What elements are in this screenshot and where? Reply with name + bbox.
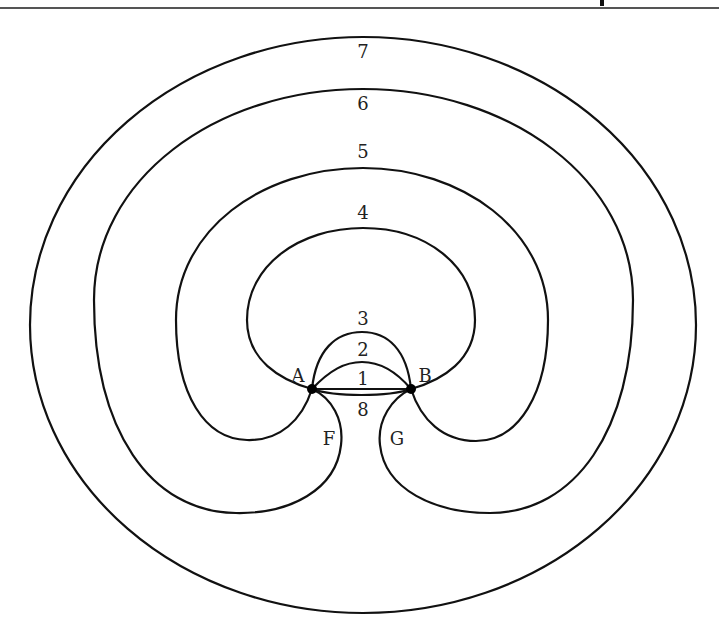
label-5: 5 bbox=[357, 141, 368, 162]
label-4: 4 bbox=[357, 202, 368, 223]
label-7: 7 bbox=[357, 41, 368, 62]
region-label-g: G bbox=[390, 428, 404, 449]
graph-diagram: 7 6 5 4 3 2 1 8 A B F G bbox=[0, 0, 719, 637]
label-8: 8 bbox=[357, 399, 368, 420]
vertex-label-b: B bbox=[418, 365, 431, 386]
region-label-f: F bbox=[323, 428, 336, 449]
label-3: 3 bbox=[357, 308, 368, 329]
label-1: 1 bbox=[357, 368, 368, 389]
label-2: 2 bbox=[357, 339, 368, 360]
vertex-a bbox=[307, 384, 317, 394]
vertex-b bbox=[406, 384, 416, 394]
vertex-label-a: A bbox=[291, 365, 306, 386]
label-6: 6 bbox=[357, 93, 368, 114]
